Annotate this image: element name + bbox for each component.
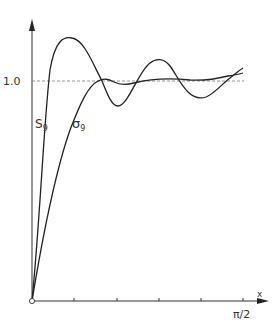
y-tick-label: 1.0: [3, 75, 21, 88]
y-axis-arrow-icon: [29, 19, 35, 31]
series-s9-line: [32, 38, 243, 301]
origin-marker: [29, 298, 34, 303]
x-end-label: π/2: [233, 308, 250, 321]
chart: 1.0 π/2 x S9 σ9: [0, 0, 273, 334]
series-sigma9-line: [32, 73, 243, 301]
series-sigma9-label: σ9: [72, 116, 85, 133]
x-axis-label: x: [257, 289, 263, 299]
